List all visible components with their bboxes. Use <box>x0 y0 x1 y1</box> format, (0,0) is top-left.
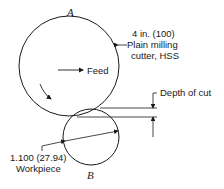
workpiece-label: B <box>87 169 94 181</box>
cutter-size-label: 4 in. (100) <box>132 28 175 39</box>
feed-label: Feed <box>87 65 109 76</box>
rotation-arrow-icon <box>40 84 51 99</box>
workpiece-name-label: Workpiece <box>16 163 61 174</box>
workpiece-diameter-line <box>65 131 118 141</box>
depth-of-cut-label: Depth of cut <box>160 87 212 98</box>
milling-diagram: A B 4 in. (100) Plain milling cutter, HS… <box>0 0 224 189</box>
workpiece-leader-line <box>42 141 65 151</box>
workpiece-size-label: 1.100 (27.94) <box>10 152 67 163</box>
cutter-label: A <box>66 6 74 18</box>
cutter-type-line1: Plain milling <box>127 39 178 50</box>
cutter-type-line2: cutter, HSS <box>131 50 179 61</box>
